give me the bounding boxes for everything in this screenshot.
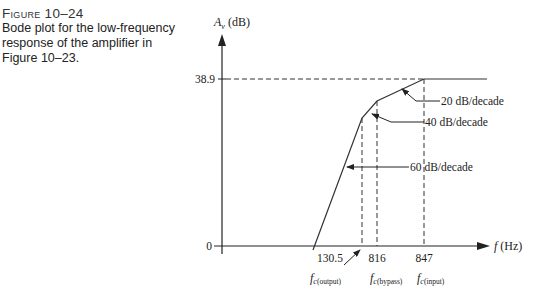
- y-tick-label-38.9: 38.9: [195, 73, 215, 85]
- fc-output-pointer: [344, 250, 360, 265]
- y-axis-label-unit: (dB): [225, 15, 250, 29]
- x-axis-label: f (Hz): [494, 239, 522, 253]
- annotation-40db: 40 dB/decade: [425, 116, 488, 128]
- x-tick-label-130.5: 130.5: [317, 252, 343, 264]
- bode-plot: Av (dB) f (Hz) 38.9 0 130.5 816 847 fc(o…: [0, 0, 545, 290]
- x-axis-label-unit: (Hz): [497, 239, 522, 253]
- fc-output-label: fc(output): [310, 271, 342, 286]
- y-axis-arrow-icon: [218, 34, 226, 46]
- fc-input-label: fc(input): [417, 271, 445, 286]
- y-tick-label-0: 0: [206, 240, 212, 252]
- fc-bypass-label: fc(bypass): [370, 271, 403, 286]
- x-tick-label-847: 847: [415, 252, 433, 264]
- x-axis-arrow-icon: [477, 242, 490, 250]
- annotation-20db: 20 dB/decade: [441, 95, 504, 107]
- x-tick-label-816: 816: [368, 252, 386, 264]
- annotation-leader-40db: [372, 114, 424, 122]
- annotation-leader-20db: [402, 89, 440, 101]
- annotation-60db: 60 dB/decade: [410, 161, 473, 173]
- y-axis-label: Av (dB): [213, 15, 250, 31]
